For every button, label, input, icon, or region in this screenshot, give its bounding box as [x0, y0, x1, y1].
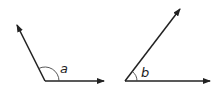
ray-a-left [17, 25, 45, 81]
angle-a: a [17, 25, 104, 81]
arc-b [132, 72, 137, 82]
label-a: a [60, 61, 68, 76]
angles-diagram: a b [0, 0, 222, 90]
ray-b-upper [125, 9, 180, 81]
label-b: b [141, 65, 149, 80]
angle-b: b [125, 9, 210, 81]
